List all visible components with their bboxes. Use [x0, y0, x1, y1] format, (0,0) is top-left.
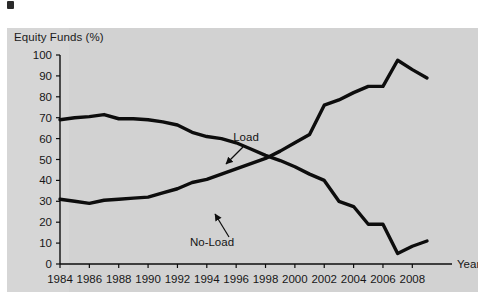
x-tick-label: 2004	[341, 273, 367, 285]
y-tick-label: 70	[39, 112, 52, 124]
x-tick-label: 1998	[253, 273, 279, 285]
x-tick-label: 1990	[135, 273, 161, 285]
x-tick-label: 1986	[77, 273, 103, 285]
x-tick-label: 2008	[400, 273, 426, 285]
annotation-label-no-load: No-Load	[190, 236, 234, 248]
y-tick-label: 0	[46, 258, 52, 270]
y-tick-label: 50	[39, 154, 52, 166]
x-tick-label: 1988	[106, 273, 132, 285]
x-tick-label: 1984	[47, 273, 73, 285]
y-tick-label: 20	[39, 216, 52, 228]
annotation-label-load: Load	[233, 131, 259, 143]
caption-artifact	[7, 1, 14, 9]
x-tick-label: 2006	[370, 273, 396, 285]
x-tick-label: 2000	[282, 273, 308, 285]
x-tick-label: 2002	[311, 273, 337, 285]
chart-figure: Equity Funds (%) 01020304050607080901001…	[0, 0, 495, 306]
y-tick-label: 80	[39, 91, 52, 103]
y-tick-label: 90	[39, 70, 52, 82]
y-tick-label: 100	[33, 49, 52, 61]
annotation-arrow-no-load	[215, 214, 229, 237]
plot-area: 0102030405060708090100198419861988199019…	[7, 28, 478, 292]
y-tick-label: 10	[39, 237, 52, 249]
line-chart: 0102030405060708090100198419861988199019…	[7, 28, 478, 292]
x-tick-label: 1996	[223, 273, 249, 285]
y-tick-label: 40	[39, 174, 52, 186]
y-tick-label: 30	[39, 195, 52, 207]
x-axis-title: Year	[457, 258, 478, 270]
annotation-arrow-load	[226, 147, 243, 164]
y-tick-label: 60	[39, 133, 52, 145]
x-tick-label: 1992	[165, 273, 191, 285]
x-tick-label: 1994	[194, 273, 220, 285]
